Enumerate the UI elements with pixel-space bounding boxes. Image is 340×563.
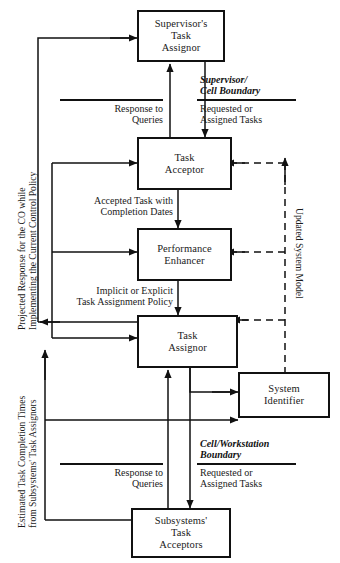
node-performance-enhancer[interactable]: Performance Enhancer — [137, 228, 232, 281]
edge-label-response-to-queries-top: Response to Queries — [68, 103, 163, 126]
edge-label-requested-or-assigned-tasks-top: Requested or Assigned Tasks — [200, 103, 310, 126]
node-task-assignor[interactable]: Task Assignor — [137, 315, 238, 368]
node-label-task-acceptor: Task Acceptor — [163, 152, 206, 176]
edge-task-assignor-to-system-identifier-upper — [190, 368, 232, 392]
node-label-performance-enhancer: Performance Enhancer — [155, 243, 214, 267]
node-supervisors-task-assignor[interactable]: Supervisor's Task Assignor — [137, 10, 225, 62]
node-label-supervisors-task-assignor: Supervisor's Task Assignor — [153, 18, 210, 53]
node-system-identifier[interactable]: System Identifier — [238, 372, 330, 418]
node-label-system-identifier: System Identifier — [262, 383, 306, 407]
vertical-label-estimated-task-completion: Estimated Task Completion Times from Sub… — [16, 348, 39, 528]
vertical-label-updated-system-model: Updated System Model — [294, 208, 305, 358]
edge-label-implicit-or-explicit-task-assignment-policy: Implicit or Explicit Task Assignment Pol… — [38, 285, 173, 308]
vertical-label-projected-response: Projected Response for the CO while Impl… — [16, 100, 39, 330]
boundary-label-cell-workstation: Cell/Workstation Boundary — [200, 438, 310, 461]
node-subsystems-task-acceptors[interactable]: Subsystems' Task Acceptors — [131, 508, 231, 558]
node-task-acceptor[interactable]: Task Acceptor — [137, 137, 232, 190]
boundary-label-supervisor-cell: Supervisor/ Cell Boundary — [200, 74, 310, 97]
node-label-task-assignor: Task Assignor — [166, 330, 209, 354]
node-label-subsystems-task-acceptors: Subsystems' Task Acceptors — [153, 515, 210, 550]
diagram-canvas: Supervisor's Task Assignor Task Acceptor… — [0, 0, 340, 563]
edge-label-response-to-queries-bottom: Response to Queries — [68, 467, 163, 490]
edge-label-accepted-task-with-completion-dates: Accepted Task with Completion Dates — [48, 195, 173, 218]
edge-label-requested-or-assigned-tasks-bottom: Requested or Assigned Tasks — [200, 467, 310, 490]
